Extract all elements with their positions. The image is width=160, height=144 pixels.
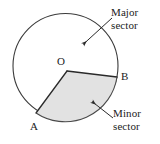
major-sector-label-line1: Major — [111, 6, 138, 19]
minor-sector-label-line2: sector — [113, 120, 141, 133]
point-label-a: A — [30, 120, 38, 132]
point-label-o: O — [57, 55, 65, 67]
major-sector-label: Major sector — [111, 6, 138, 31]
minor-sector-label: Minor sector — [113, 107, 141, 132]
point-label-b: B — [121, 70, 128, 82]
major-sector-label-line2: sector — [111, 19, 138, 32]
minor-sector-label-line1: Minor — [113, 107, 141, 120]
circle-sector-figure: O A B Major sector Minor sector — [0, 0, 160, 144]
